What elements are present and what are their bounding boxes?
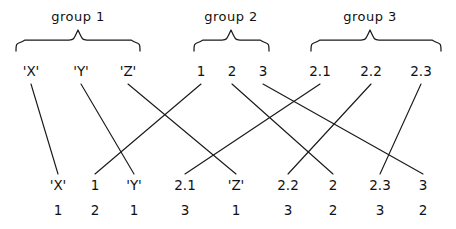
bottom-pair-1-primary: 1 xyxy=(91,177,100,193)
bottom-pair-4-primary: 'Z' xyxy=(228,177,245,193)
group-label-2: group 2 xyxy=(204,9,258,24)
bottom-pair-7-secondary: 3 xyxy=(376,202,385,218)
bottom-pair-8-primary: 3 xyxy=(419,177,428,193)
bottom-pair-2-primary: 'Y' xyxy=(126,177,142,193)
group-label-3: group 3 xyxy=(343,9,397,24)
connector-layer xyxy=(0,0,456,229)
brace-group-1 xyxy=(16,30,140,51)
top-token-8: 2.3 xyxy=(410,63,431,79)
edge-e0 xyxy=(31,84,58,174)
bottom-pair-0-primary: 'X' xyxy=(50,177,67,193)
edge-e4 xyxy=(232,84,333,174)
bottom-pair-5-secondary: 3 xyxy=(284,202,293,218)
brace-group-2 xyxy=(194,30,269,51)
bottom-pair-1-secondary: 2 xyxy=(91,202,100,218)
bottom-pair-4-secondary: 1 xyxy=(232,202,241,218)
edge-e3 xyxy=(95,84,201,174)
brace-group-3 xyxy=(311,30,441,51)
bottom-pair-8-secondary: 2 xyxy=(419,202,428,218)
bottom-pair-3-secondary: 3 xyxy=(181,202,190,218)
bottom-pair-7-primary: 2.3 xyxy=(369,177,390,193)
bottom-pair-0-secondary: 1 xyxy=(54,202,63,218)
top-token-3: 1 xyxy=(197,63,206,79)
diagram-canvas: group 1 group 2 group 3 'X' 'Y' 'Z' 1 2 … xyxy=(0,0,456,229)
top-token-2: 'Z' xyxy=(120,63,137,79)
group-label-1: group 1 xyxy=(51,9,105,24)
bottom-pair-2-secondary: 1 xyxy=(130,202,139,218)
edge-e1 xyxy=(81,84,134,174)
bottom-pair-6-primary: 2 xyxy=(329,177,338,193)
top-token-5: 3 xyxy=(259,63,268,79)
top-token-0: 'X' xyxy=(23,63,40,79)
bottom-pair-6-secondary: 2 xyxy=(329,202,338,218)
top-token-4: 2 xyxy=(228,63,237,79)
bottom-pair-3-primary: 2.1 xyxy=(174,177,195,193)
bottom-pair-5-primary: 2.2 xyxy=(277,177,298,193)
edge-e2 xyxy=(128,84,236,174)
edge-e8 xyxy=(380,84,421,174)
top-token-1: 'Y' xyxy=(73,63,89,79)
top-token-7: 2.2 xyxy=(360,63,381,79)
edge-e5 xyxy=(263,84,423,174)
top-token-6: 2.1 xyxy=(309,63,330,79)
